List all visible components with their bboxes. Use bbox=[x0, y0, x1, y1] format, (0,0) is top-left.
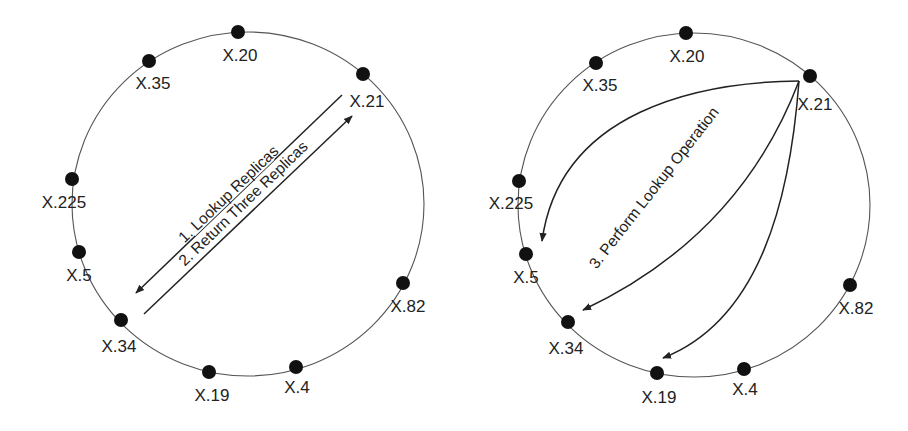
node-dot bbox=[512, 174, 526, 188]
node-label: X.225 bbox=[42, 193, 86, 212]
left-node-x225: X.225 bbox=[42, 172, 86, 212]
arrow-to-x34 bbox=[583, 81, 799, 310]
node-label: X.20 bbox=[670, 47, 705, 66]
node-dot bbox=[679, 26, 693, 40]
node-dot bbox=[519, 247, 533, 261]
node-dot bbox=[142, 54, 156, 68]
right-node-x34: X.34 bbox=[549, 315, 584, 358]
node-dot bbox=[561, 315, 575, 329]
node-dot bbox=[650, 366, 664, 380]
arrow-to-x19 bbox=[663, 81, 799, 358]
node-label: X.19 bbox=[642, 388, 677, 407]
node-label: X.19 bbox=[195, 386, 230, 405]
node-dot bbox=[202, 365, 216, 379]
left-node-x20: X.20 bbox=[223, 25, 258, 65]
node-label: X.20 bbox=[223, 46, 258, 65]
right-node-x21: X.21 bbox=[798, 69, 833, 114]
left-node-x34: X.34 bbox=[102, 313, 137, 356]
left-node-x4: X.4 bbox=[284, 360, 310, 397]
right-node-x225: X.225 bbox=[489, 174, 533, 213]
node-dot bbox=[803, 69, 817, 83]
right-edges-perform-lookup bbox=[542, 81, 799, 358]
node-label: X.35 bbox=[136, 74, 171, 93]
diagram-canvas: X.20 X.35 X.21 X.225 X.5 X.34 X.19 X.4 bbox=[0, 0, 908, 431]
node-dot bbox=[72, 245, 86, 259]
right-ring-diagram: X.20 X.35 X.21 X.225 X.5 X.34 X.19 X.4 bbox=[489, 26, 874, 407]
node-label: X.82 bbox=[839, 299, 874, 318]
left-edge-return-replicas bbox=[144, 116, 352, 314]
left-ring-diagram: X.20 X.35 X.21 X.225 X.5 X.34 X.19 X.4 bbox=[42, 25, 426, 405]
node-dot bbox=[589, 56, 603, 70]
replica-lookup-diagram: X.20 X.35 X.21 X.225 X.5 X.34 X.19 X.4 bbox=[0, 0, 908, 431]
node-dot bbox=[843, 278, 857, 292]
right-edge-label: 3. Perform Lookup Operation bbox=[585, 104, 721, 272]
right-node-x82: X.82 bbox=[839, 278, 874, 318]
node-dot bbox=[396, 276, 410, 290]
node-dot bbox=[356, 67, 370, 81]
node-label: X.225 bbox=[489, 194, 533, 213]
right-node-x4: X.4 bbox=[732, 362, 758, 399]
node-label: X.34 bbox=[549, 339, 584, 358]
node-label: X.4 bbox=[732, 380, 758, 399]
node-label: X.5 bbox=[66, 266, 92, 285]
node-label: X.35 bbox=[583, 76, 618, 95]
left-node-x5: X.5 bbox=[66, 245, 92, 285]
node-label: X.4 bbox=[284, 378, 310, 397]
node-dot bbox=[737, 362, 751, 376]
node-label: X.21 bbox=[798, 95, 833, 114]
left-node-x35: X.35 bbox=[136, 54, 171, 93]
edge-label-lookup-replicas: 1. Lookup Replicas bbox=[175, 142, 282, 246]
node-label: X.5 bbox=[513, 268, 539, 287]
right-node-x20: X.20 bbox=[670, 26, 705, 66]
edge-label-perform-lookup-operation: 3. Perform Lookup Operation bbox=[585, 104, 721, 272]
node-dot bbox=[231, 25, 245, 39]
arrow-to-x21 bbox=[144, 116, 352, 314]
left-node-x82: X.82 bbox=[391, 276, 426, 316]
node-label: X.82 bbox=[391, 297, 426, 316]
left-node-x19: X.19 bbox=[195, 365, 230, 405]
right-node-x5: X.5 bbox=[513, 247, 539, 287]
left-edge-labels: 1. Lookup Replicas 2. Return Three Repli… bbox=[163, 125, 311, 269]
right-node-x35: X.35 bbox=[583, 56, 618, 95]
node-dot bbox=[289, 360, 303, 374]
node-dot bbox=[114, 313, 128, 327]
right-node-x19: X.19 bbox=[642, 366, 677, 407]
node-dot bbox=[65, 172, 79, 186]
node-label: X.34 bbox=[102, 337, 137, 356]
node-label: X.21 bbox=[350, 92, 385, 111]
edge-label-return-three-replicas: 2. Return Three Replicas bbox=[175, 137, 311, 269]
